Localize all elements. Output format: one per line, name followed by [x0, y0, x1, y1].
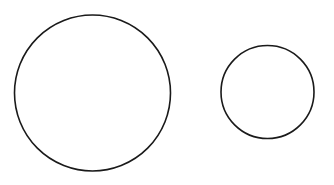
small-circle	[221, 46, 314, 139]
diagram-canvas	[0, 0, 334, 185]
circles-diagram	[0, 0, 334, 185]
large-circle	[15, 15, 171, 171]
